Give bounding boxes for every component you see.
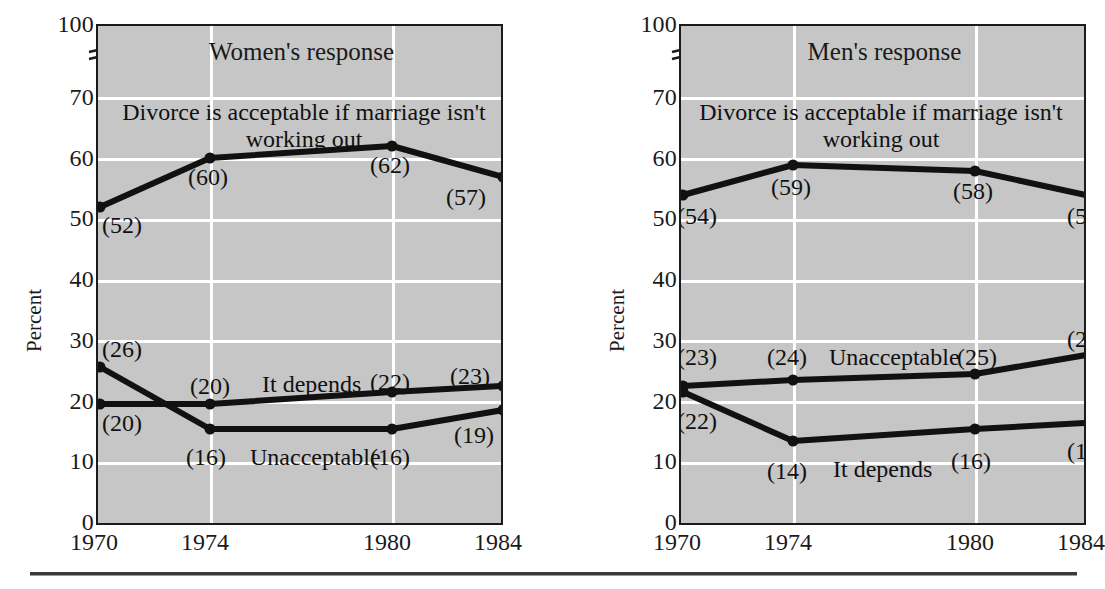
y-tick-20: 20 bbox=[32, 389, 94, 413]
y-tick-10-men: 10 bbox=[615, 449, 677, 473]
point-label-depends-1970-men: (22) bbox=[679, 408, 717, 435]
y-tick-70: 70 bbox=[32, 85, 94, 109]
point-label-depends-1974-women: (20) bbox=[190, 373, 230, 400]
x-tick-1980-men: 1980 bbox=[946, 530, 994, 554]
point-label-depends-1974-men: (14) bbox=[767, 458, 807, 485]
y-axis-title-women: Percent bbox=[24, 289, 45, 352]
x-tick-1984-women: 1984 bbox=[474, 530, 522, 554]
point-label-unacceptable-1980-women: (16) bbox=[370, 444, 410, 471]
point-label-unacceptable-1970-men: (23) bbox=[679, 344, 717, 371]
plot-area-men: Men's response Divorce is acceptable if … bbox=[679, 24, 1086, 525]
point-label-depends-1970-women: (20) bbox=[102, 410, 142, 437]
point-label-depends-1984-women: (23) bbox=[450, 363, 490, 390]
y-tick-100-men: 100 bbox=[615, 12, 677, 36]
series-label-unacceptable-women: Unacceptable bbox=[250, 444, 381, 471]
point-label-unacceptable-1974-men: (24) bbox=[767, 344, 807, 371]
y-axis-title-men: Percent bbox=[607, 289, 628, 352]
footer-horizontal-rule bbox=[30, 572, 1077, 575]
point-label-unacceptable-1984-women: (19) bbox=[454, 422, 494, 449]
plot-area-women: Women's response Divorce is acceptable i… bbox=[96, 24, 503, 525]
point-label-acceptable-1980-men: (58) bbox=[953, 178, 993, 205]
x-tick-1974-women: 1974 bbox=[181, 530, 229, 554]
y-tick-100: 100 bbox=[32, 12, 94, 36]
y-tick-40-men: 40 bbox=[615, 267, 677, 291]
point-label-acceptable-1974-women: (60) bbox=[188, 164, 228, 191]
panel-mens-response: 100 70 60 50 40 30 20 10 0 Percent Men's… bbox=[583, 0, 1077, 589]
point-label-acceptable-1984-men: (54 bbox=[1067, 203, 1086, 230]
x-tick-1970-women: 1970 bbox=[70, 530, 118, 554]
line-it-depends-men bbox=[683, 392, 1086, 441]
line-acceptable-men bbox=[683, 165, 1086, 195]
y-tick-20-men: 20 bbox=[615, 389, 677, 413]
y-tick-50: 50 bbox=[32, 206, 94, 230]
y-tick-60: 60 bbox=[32, 146, 94, 170]
y-tick-50-men: 50 bbox=[615, 206, 677, 230]
y-tick-40: 40 bbox=[32, 267, 94, 291]
point-label-acceptable-1984-women: (57) bbox=[446, 184, 486, 211]
y-tick-60-men: 60 bbox=[615, 146, 677, 170]
x-tick-1974-men: 1974 bbox=[764, 530, 812, 554]
panel-womens-response: 100 70 60 50 40 30 20 10 0 Percent bbox=[0, 0, 540, 589]
point-label-depends-1980-men: (16) bbox=[951, 448, 991, 475]
point-label-unacceptable-1970-women: (26) bbox=[102, 336, 142, 363]
x-tick-1984-men: 1984 bbox=[1057, 530, 1105, 554]
point-label-unacceptable-1980-men: (25) bbox=[957, 344, 997, 371]
series-label-unacceptable-men: Unacceptable bbox=[829, 344, 960, 371]
point-label-unacceptable-1974-women: (16) bbox=[186, 444, 226, 471]
series-label-it-depends-women: It depends bbox=[262, 371, 361, 398]
point-label-unacceptable-1984-men: (28 bbox=[1067, 326, 1086, 353]
point-label-acceptable-1974-men: (59) bbox=[771, 174, 811, 201]
line-acceptable-women bbox=[100, 146, 503, 207]
point-label-acceptable-1980-women: (62) bbox=[370, 152, 410, 179]
point-label-acceptable-1970-women: (52) bbox=[102, 212, 142, 239]
y-tick-10: 10 bbox=[32, 449, 94, 473]
point-label-depends-1984-men: (17 bbox=[1067, 438, 1086, 465]
point-label-acceptable-1970-men: (54) bbox=[679, 203, 717, 230]
series-lines-men bbox=[681, 26, 1086, 525]
point-label-depends-1980-women: (22) bbox=[370, 369, 410, 396]
x-tick-1970-men: 1970 bbox=[653, 530, 701, 554]
y-tick-70-men: 70 bbox=[615, 85, 677, 109]
markers-men bbox=[679, 160, 981, 447]
x-tick-1980-women: 1980 bbox=[363, 530, 411, 554]
series-label-it-depends-men: It depends bbox=[833, 456, 932, 483]
